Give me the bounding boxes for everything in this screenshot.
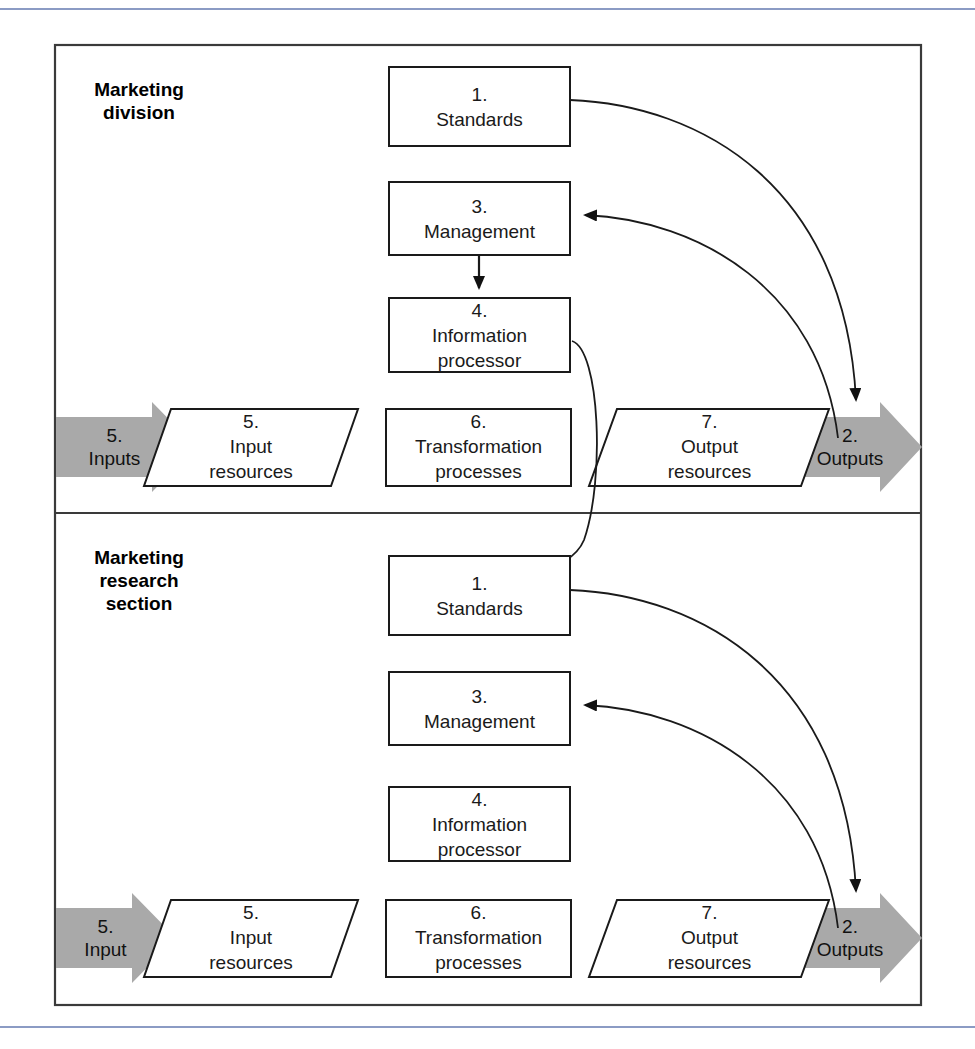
section-title-marketing-division: Marketing division xyxy=(64,78,214,124)
section-title-line-2: division xyxy=(103,102,175,123)
section-title-line-2: research xyxy=(99,570,178,591)
box-transformation-processes-research[interactable] xyxy=(386,900,571,977)
box-standards-division[interactable] xyxy=(389,67,570,146)
shape-input-resources-division[interactable] xyxy=(144,409,358,486)
box-information-processor-research[interactable] xyxy=(389,787,570,861)
section-title-line-1: Marketing xyxy=(94,79,184,100)
box-information-processor-division[interactable] xyxy=(389,298,570,372)
box-transformation-processes-division[interactable] xyxy=(386,409,571,486)
diagram-page: Marketing division Marketing research se… xyxy=(0,0,975,1049)
box-management-division[interactable] xyxy=(389,182,570,255)
systems-diagram-canvas xyxy=(0,0,975,1049)
section-title-line-1: Marketing xyxy=(94,547,184,568)
shape-output-resources-division[interactable] xyxy=(589,409,829,486)
section-title-line-3: section xyxy=(106,593,173,614)
shape-output-resources-research[interactable] xyxy=(589,900,829,977)
connector-outputs-to-management-research xyxy=(585,705,838,928)
connector-outputs-to-management-division xyxy=(585,215,838,438)
box-management-research[interactable] xyxy=(389,672,570,745)
shape-input-resources-research[interactable] xyxy=(144,900,358,977)
section-title-marketing-research-section: Marketing research section xyxy=(64,546,214,615)
box-standards-research[interactable] xyxy=(389,556,570,635)
